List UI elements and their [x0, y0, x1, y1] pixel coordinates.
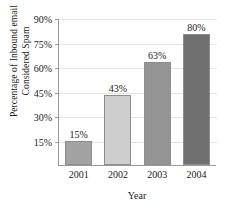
y-axis-title-line-1: Percentage of Inbound email	[9, 0, 21, 141]
y-axis-tick-label: 75%	[34, 38, 52, 49]
bar-value-label: 15%	[69, 129, 87, 140]
y-axis-title: Percentage of Inbound email Considered S…	[9, 0, 35, 141]
bar-value-label: 63%	[148, 50, 166, 61]
bar-chart-figure: Percentage of Inbound email Considered S…	[0, 0, 230, 212]
x-axis-title: Year	[58, 190, 216, 201]
bar-2002: 43%	[104, 95, 131, 165]
y-axis-tick-mark	[55, 142, 60, 143]
plot-area: 15%30%45%60%75%90% 15%43%63%80% 20012002…	[58, 19, 216, 166]
y-axis-tick-label: 30%	[34, 112, 52, 123]
bar-2004: 80%	[183, 34, 210, 165]
y-axis-tick-mark	[55, 68, 60, 69]
y-axis-tick-label: 15%	[34, 136, 52, 147]
x-axis-tick-label: 2003	[147, 169, 167, 180]
bar-value-label: 80%	[187, 22, 205, 33]
y-axis-title-line-2: Considered Spam	[21, 0, 33, 141]
y-axis-tick-label: 45%	[34, 87, 52, 98]
y-axis-tick-label: 60%	[34, 63, 52, 74]
bar-2001: 15%	[65, 141, 92, 166]
x-axis-tick-label: 2002	[108, 169, 128, 180]
y-axis-tick-mark	[55, 19, 60, 20]
y-axis-tick-mark	[55, 44, 60, 45]
y-axis-tick-mark	[55, 93, 60, 94]
bar-value-label: 43%	[109, 83, 127, 94]
x-axis-tick-label: 2001	[69, 169, 89, 180]
y-axis-tick-mark	[55, 117, 60, 118]
bar-2003: 63%	[144, 62, 171, 165]
gridline	[59, 19, 217, 20]
x-axis-tick-label: 2004	[186, 169, 206, 180]
y-axis-tick-label: 90%	[34, 14, 52, 25]
